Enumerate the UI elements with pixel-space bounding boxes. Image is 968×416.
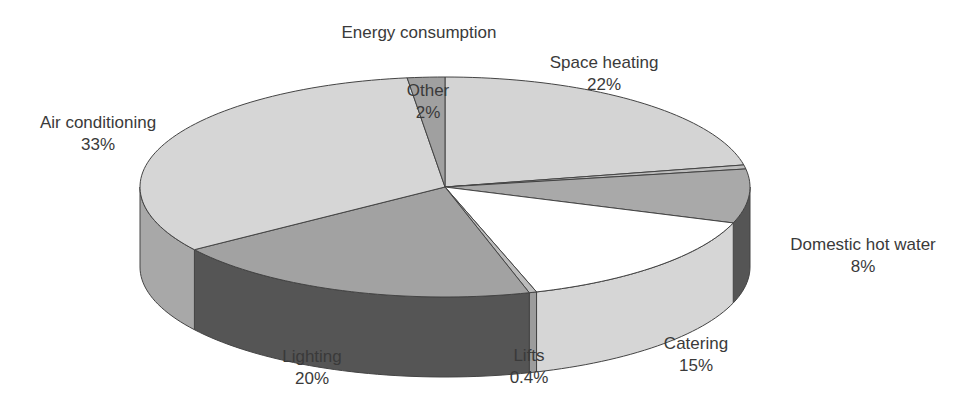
slice-label-value: 8% <box>851 257 876 276</box>
pie-tops <box>140 77 750 297</box>
slice-label-name: Air conditioning <box>40 113 156 132</box>
slice-label-name: Space heating <box>550 53 659 72</box>
slice-label-value: 22% <box>587 75 621 94</box>
slice-label-name: Other <box>407 81 450 100</box>
slice-label-air-conditioning: Air conditioning33% <box>40 113 156 154</box>
pie-chart: Energy consumption Space heating22%Domes… <box>0 0 968 416</box>
slice-label-name: Domestic hot water <box>790 235 936 254</box>
slice-label-value: 0.4% <box>510 368 549 387</box>
slice-label-name: Lighting <box>282 347 342 366</box>
slice-label-catering: Catering15% <box>664 334 728 375</box>
slice-label-value: 33% <box>81 135 115 154</box>
slice-label-value: 15% <box>679 356 713 375</box>
slice-label-name: Lifts <box>513 346 544 365</box>
slice-label-value: 20% <box>295 369 329 388</box>
slice-label-domestic-hot-water: Domestic hot water8% <box>790 235 936 276</box>
slice-label-value: 2% <box>416 103 441 122</box>
chart-title: Energy consumption <box>342 23 497 42</box>
slice-label-name: Catering <box>664 334 728 353</box>
